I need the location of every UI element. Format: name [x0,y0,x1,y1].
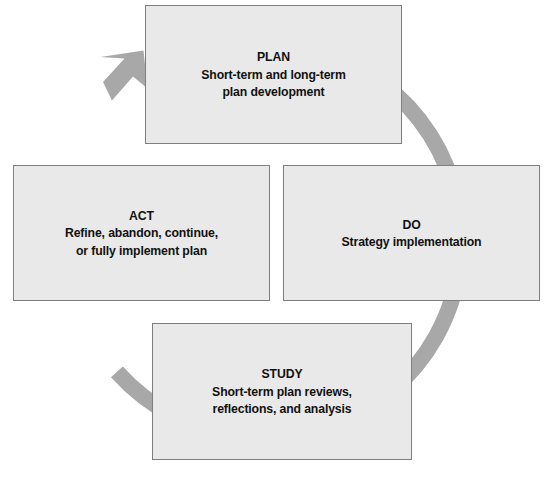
node-act: ACT Refine, abandon, continue, or fully … [13,165,270,301]
node-study: STUDY Short-term plan reviews, reflectio… [152,323,412,460]
node-act-description: Refine, abandon, continue, or fully impl… [23,224,260,259]
pdca-cycle-diagram: PLAN Short-term and long-term plan devel… [0,0,559,487]
node-plan: PLAN Short-term and long-term plan devel… [145,5,402,144]
cycle-arrowhead [101,51,148,101]
node-act-title: ACT [23,207,260,225]
node-do: DO Strategy implementation [283,165,540,301]
node-do-description: Strategy implementation [293,233,530,251]
node-study-description: Short-term plan reviews, reflections, an… [162,383,402,418]
node-plan-title: PLAN [155,48,392,66]
node-plan-description: Short-term and long-term plan developmen… [155,66,392,101]
node-study-title: STUDY [162,365,402,383]
node-do-title: DO [293,216,530,234]
